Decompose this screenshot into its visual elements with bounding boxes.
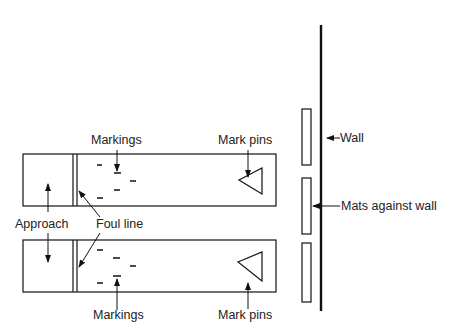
label-approach: Approach bbox=[15, 218, 69, 231]
pin-triangle-top bbox=[239, 168, 262, 194]
foul-line-bottom-arrow bbox=[79, 233, 100, 267]
lane-bottom bbox=[23, 240, 276, 292]
mat-3 bbox=[302, 243, 311, 302]
lane-markings-bottom bbox=[97, 250, 136, 283]
label-mark-pins-bottom: Mark pins bbox=[218, 309, 272, 322]
label-mark-pins-top: Mark pins bbox=[218, 134, 272, 147]
mat-1 bbox=[302, 109, 311, 165]
label-wall: Wall bbox=[340, 132, 364, 145]
pin-triangle-bottom bbox=[238, 252, 262, 281]
label-foul-line: Foul line bbox=[96, 218, 143, 231]
mat-2 bbox=[302, 178, 311, 234]
lane-top bbox=[23, 154, 276, 206]
lane-diagram bbox=[0, 0, 465, 333]
label-mats: Mats against wall bbox=[341, 200, 437, 213]
label-markings-bottom: Markings bbox=[93, 309, 144, 322]
label-markings-top: Markings bbox=[91, 134, 142, 147]
foul-line-top-arrow bbox=[79, 191, 100, 217]
